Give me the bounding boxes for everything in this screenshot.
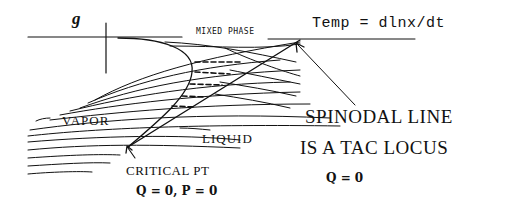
spinodal-arrow: [298, 45, 355, 105]
critical-point-label: CRITICAL PT: [126, 164, 209, 177]
liquid-isotherms: [215, 48, 300, 108]
spinodal-title-line1: SPINODAL LINE: [305, 107, 453, 126]
critical-point-equation: Q = 0, P = 0: [136, 185, 217, 197]
liquid-label: LIQUID: [202, 132, 253, 145]
axis-label-g: g: [72, 10, 81, 27]
vapor-label: VAPOR: [62, 114, 109, 127]
isotherms: [28, 42, 340, 174]
temp-equation-label: Temp = dlnx/dt: [312, 16, 445, 31]
spinodal-equation: Q = 0: [326, 172, 363, 184]
mixed-phase-label: MIXED PHASE: [196, 28, 254, 36]
spinodal-title-line2: IS A TAC LOCUS: [300, 138, 448, 157]
